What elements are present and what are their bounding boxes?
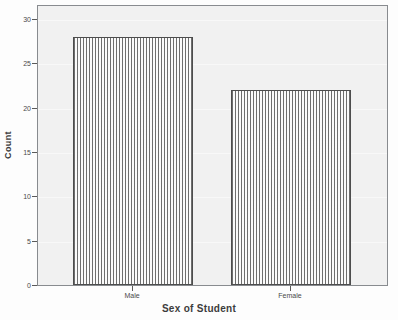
- y-tick-label: 5: [13, 237, 31, 244]
- bar: [231, 90, 351, 285]
- x-axis-title: Sex of Student: [0, 303, 398, 314]
- y-tick-label: 25: [13, 60, 31, 67]
- bar-chart: Count 051015202530 MaleFemale Sex of Stu…: [0, 0, 398, 320]
- y-axis-title: Count: [0, 110, 16, 180]
- plot-inner: [38, 6, 387, 285]
- plot-area: [37, 5, 388, 286]
- gridline: [38, 20, 387, 21]
- y-tick-label: 20: [13, 104, 31, 111]
- x-tick-mark: [290, 286, 291, 291]
- x-tick-label: Female: [278, 292, 301, 299]
- x-tick-mark: [132, 286, 133, 291]
- y-tick-label: 15: [13, 149, 31, 156]
- y-tick-label: 30: [13, 16, 31, 23]
- y-tick-label: 0: [13, 282, 31, 289]
- bar: [73, 37, 193, 285]
- x-tick-label: Male: [124, 292, 139, 299]
- y-tick-label: 10: [13, 193, 31, 200]
